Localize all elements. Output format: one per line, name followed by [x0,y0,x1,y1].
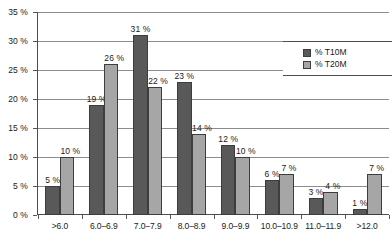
bar: 10 % [235,157,249,215]
bar: 3 % [309,198,323,215]
bar-value-label: 6 % [265,170,280,179]
y-tick-label: 10 % [8,153,28,162]
x-tick-mark [257,215,258,219]
x-tick-mark [126,215,127,219]
x-tick-label: 11.0–11.9 [301,221,345,231]
bar-value-label: 12 % [218,135,238,144]
bar: 5 % [45,186,59,215]
bar-value-label: 23 % [174,72,194,81]
legend-swatch-icon [303,61,311,69]
y-tick-label: 25 % [8,66,28,75]
x-tick-label: 8.0–8.9 [170,221,214,231]
x-tick-mark [170,215,171,219]
bar-value-label: 22 % [148,77,168,86]
y-tick-label: 30 % [8,37,28,46]
bar-value-label: 10 % [60,147,80,156]
x-tick-mark [389,215,390,219]
y-tick-label: 20 % [8,95,28,104]
x-tick-label: 9.0–9.9 [214,221,258,231]
bar-value-label: 7 % [281,164,296,173]
bar: 12 % [221,145,235,215]
bar-value-label: 31 % [131,25,151,34]
x-tick-mark [38,215,39,219]
bar: 10 % [60,157,74,215]
bar-group: 23 %14 % [170,12,214,215]
x-tick-label: >6.0 [38,221,82,231]
bar-chart: 0 %5 %10 %15 %20 %25 %30 %35 % 5 %10 %19… [0,0,392,247]
bar: 14 % [192,134,206,215]
bar: 23 % [177,82,191,215]
bar: 7 % [279,174,293,215]
bar: 19 % [89,105,103,215]
legend-label: % T20M [315,60,347,69]
bar-value-label: 26 % [104,54,124,63]
legend: % T10M% T20M [283,41,392,76]
legend-label: % T10M [315,48,347,57]
bar-value-label: 14 % [192,124,212,133]
x-tick-mark [301,215,302,219]
x-tick-label: 10.0–10.9 [257,221,301,231]
bar-value-label: 5 % [45,176,60,185]
y-tick-label: 15 % [8,124,28,133]
bar: 7 % [367,174,381,215]
bar-group: 31 %22 % [126,12,170,215]
x-tick-label: >12.0 [345,221,389,231]
bar-group: 12 %10 % [214,12,258,215]
legend-swatch-icon [303,49,311,57]
bar: 22 % [148,87,162,215]
x-tick-label: 7.0–7.9 [126,221,170,231]
bar-value-label: 1 % [352,199,367,208]
bar-value-label: 3 % [308,188,323,197]
bar: 31 % [133,35,147,215]
y-axis: 0 %5 %10 %15 %20 %25 %30 %35 % [0,0,33,247]
bar-group: 5 %10 % [38,12,82,215]
y-tick-label: 0 % [13,211,28,220]
bar-group: 19 %26 % [82,12,126,215]
legend-item[interactable]: % T20M [303,59,392,70]
bar-value-label: 4 % [325,182,340,191]
x-tick-label: 6.0–6.9 [82,221,126,231]
bar: 4 % [323,192,337,215]
legend-item[interactable]: % T10M [303,47,392,58]
bar: 6 % [265,180,279,215]
x-tick-mark [82,215,83,219]
bar-value-label: 7 % [369,164,384,173]
x-tick-mark [345,215,346,219]
bar-value-label: 10 % [236,147,256,156]
bar: 26 % [104,64,118,215]
x-tick-mark [214,215,215,219]
x-axis-labels: >6.06.0–6.97.0–7.98.0–8.99.0–9.910.0–10.… [38,221,389,231]
x-axis-ticks [37,215,389,220]
y-tick-label: 5 % [13,182,28,191]
y-tick-label: 35 % [8,8,28,17]
